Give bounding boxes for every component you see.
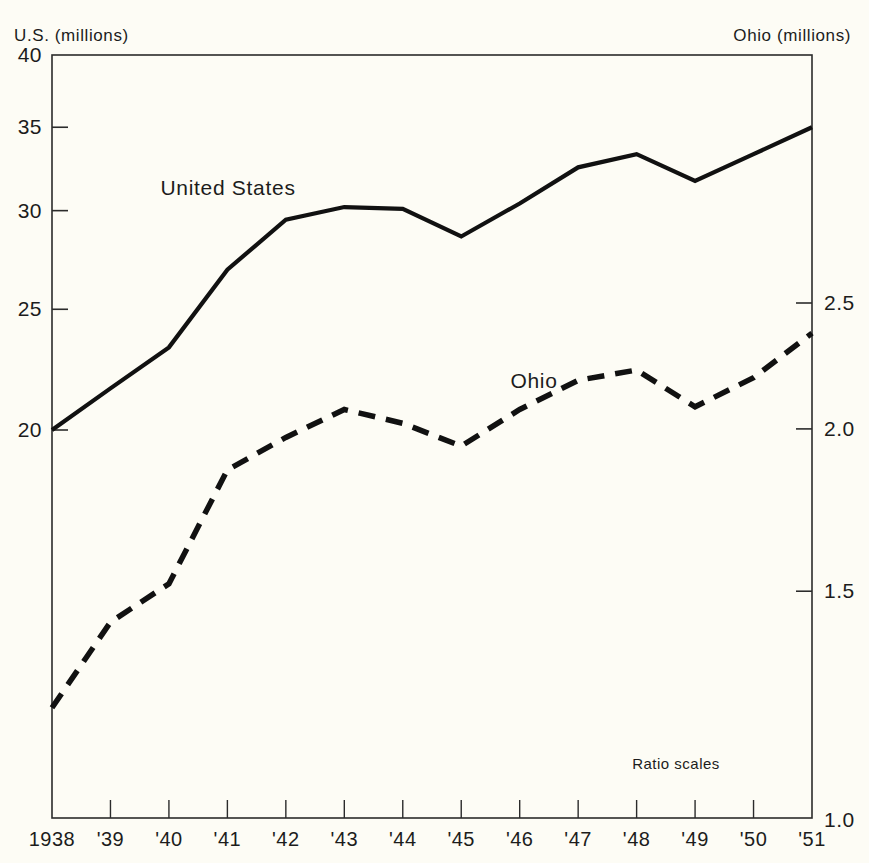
x-tick-label: '46 (506, 828, 534, 851)
x-tick-label: '47 (564, 828, 592, 851)
data-series (52, 127, 812, 708)
x-tick-label: '41 (214, 828, 242, 851)
x-tick-label: '49 (681, 828, 709, 851)
series-line-united-states (52, 127, 812, 430)
x-tick-label: '40 (155, 828, 183, 851)
right-tick-label: 2.0 (824, 417, 855, 441)
right-tick-label: 2.5 (824, 291, 855, 315)
plot-area (0, 0, 869, 863)
right-tick-label: 1.0 (824, 808, 855, 832)
x-tick-label: '43 (331, 828, 359, 851)
plot-border (52, 55, 812, 818)
series-label-ohio: Ohio (510, 369, 557, 393)
x-tick-label: '51 (798, 828, 826, 851)
x-tick-label: '45 (447, 828, 475, 851)
left-tick-label: 40 (0, 43, 42, 67)
plot-frame (52, 55, 812, 818)
ratio-scales-note: Ratio scales (632, 755, 720, 772)
x-tick-label: '44 (389, 828, 417, 851)
series-line-ohio (52, 333, 812, 708)
x-tick-label: 1938 (29, 828, 76, 851)
left-tick-label: 25 (0, 297, 42, 321)
left-tick-label: 20 (0, 418, 42, 442)
right-tick-label: 1.5 (824, 579, 855, 603)
x-tick-label: '48 (623, 828, 651, 851)
x-tick-label: '42 (272, 828, 300, 851)
left-tick-label: 35 (0, 115, 42, 139)
x-tick-label: '50 (740, 828, 768, 851)
series-label-united-states: United States (160, 176, 295, 200)
left-tick-label: 30 (0, 199, 42, 223)
x-tick-label: '39 (97, 828, 125, 851)
axis-ticks (52, 127, 812, 818)
chart-container: U.S. (millions) Ohio (millions) 40353025… (0, 0, 869, 863)
